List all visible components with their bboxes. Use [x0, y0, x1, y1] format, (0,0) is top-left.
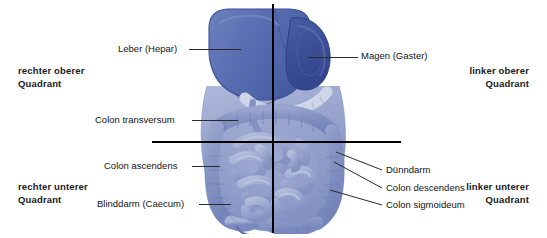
callout-label-blinddarm: Blinddarm (Caecum): [97, 199, 184, 209]
horizontal-transumbilical-line: [152, 141, 401, 143]
leader-line-colon-transversum: [192, 120, 238, 121]
callout-label-colon-transversum: Colon transversum: [95, 115, 175, 125]
callout-label-colon-sigmoideum: Colon sigmoideum: [386, 200, 465, 210]
leader-line-leber: [189, 49, 241, 50]
callout-label-colon-ascendens: Colon ascendens: [104, 161, 177, 171]
quadrant-label-left-lower: linker unterer Quadrant: [466, 180, 529, 206]
figure-abdominal-quadrants: rechter oberer Quadrant linker oberer Qu…: [0, 0, 547, 238]
vertical-median-line: [272, 4, 274, 233]
callout-label-magen: Magen (Gaster): [361, 51, 428, 61]
leader-line-colon-ascendens: [192, 166, 220, 167]
leader-line-magen: [308, 57, 358, 58]
quadrant-label-right-lower: rechter unterer Quadrant: [18, 180, 88, 206]
leader-line-blinddarm: [199, 204, 231, 205]
quadrant-label-left-upper: linker oberer Quadrant: [469, 64, 529, 90]
quadrant-label-right-upper: rechter oberer Quadrant: [18, 64, 85, 90]
callout-label-duenndarm: Dünndarm: [386, 165, 430, 175]
callout-label-leber: Leber (Hepar): [118, 44, 177, 54]
callout-label-colon-descendens: Colon descendens: [386, 183, 465, 193]
